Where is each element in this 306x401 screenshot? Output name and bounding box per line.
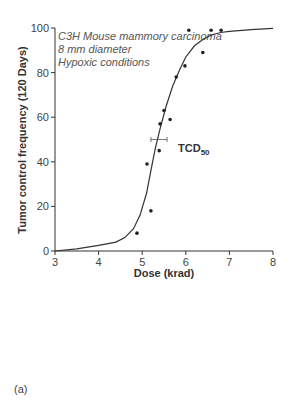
data-point xyxy=(135,231,139,235)
y-tick-label: 20 xyxy=(37,200,49,212)
y-axis-ticks: 020406080100 xyxy=(31,22,55,257)
tcd50-label: TCD50 xyxy=(178,142,210,157)
y-tick-label: 60 xyxy=(37,111,49,123)
data-point xyxy=(168,118,172,122)
y-tick-label: 100 xyxy=(31,22,49,34)
x-tick-label: 8 xyxy=(270,256,276,268)
x-tick-label: 3 xyxy=(52,256,58,268)
data-point xyxy=(219,28,223,32)
annotation-line: 8 mm diameter xyxy=(58,43,133,55)
data-point xyxy=(201,51,205,55)
annotation-line: C3H Mouse mammory carcinoma xyxy=(58,30,222,42)
data-point xyxy=(183,64,187,68)
data-point xyxy=(209,28,213,32)
y-axis-label: Tumor control frequency (120 Days) xyxy=(16,46,28,234)
x-tick-label: 4 xyxy=(96,256,102,268)
y-tick-label: 40 xyxy=(37,156,49,168)
x-axis-ticks: 345678 xyxy=(52,251,276,268)
panel-label: (a) xyxy=(14,383,27,395)
data-point xyxy=(145,162,149,166)
data-point xyxy=(174,75,178,79)
x-axis-label: Dose (krad) xyxy=(134,267,195,279)
y-tick-label: 0 xyxy=(43,245,49,257)
data-point xyxy=(157,149,161,153)
data-point xyxy=(158,122,162,126)
y-tick-label: 80 xyxy=(37,67,49,79)
data-point xyxy=(162,109,166,113)
chart-annotation: C3H Mouse mammory carcinoma 8 mm diamete… xyxy=(58,30,222,68)
annotation-line: Hypoxic conditions xyxy=(58,56,150,68)
x-tick-label: 7 xyxy=(226,256,232,268)
data-point xyxy=(149,209,153,213)
data-point xyxy=(187,28,191,32)
tcd50-marker: TCD50 xyxy=(151,137,210,157)
dose-response-chart: C3H Mouse mammory carcinoma 8 mm diamete… xyxy=(0,0,306,401)
